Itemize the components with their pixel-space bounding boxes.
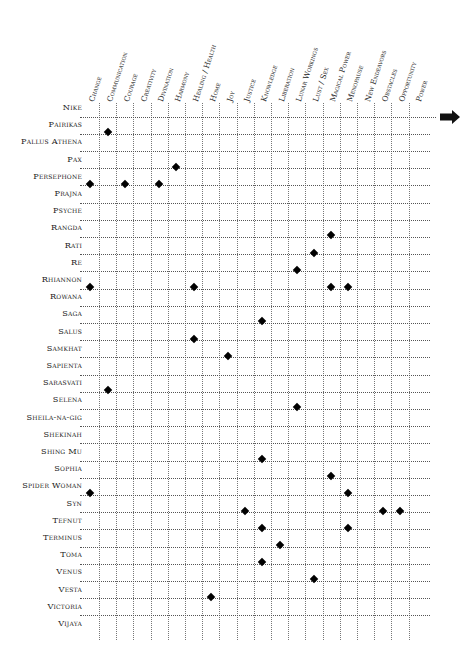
grid-vline — [409, 103, 410, 640]
grid-hline — [80, 495, 430, 496]
diamond-marker-icon — [310, 575, 318, 583]
grid-hline — [80, 426, 430, 427]
diamond-marker-icon — [293, 266, 301, 274]
grid-hline — [80, 185, 430, 186]
column-label-power: Power — [414, 79, 429, 102]
row-label-venus: Venus — [0, 566, 82, 576]
row-label-pallus-athena: Pallus Athena — [0, 136, 82, 146]
row-label-saga: Saga — [0, 308, 82, 318]
grid-hline — [80, 375, 430, 376]
grid-vline — [340, 103, 341, 640]
row-label-pax: Pax — [0, 154, 82, 164]
grid-hline — [80, 615, 430, 616]
diamond-marker-icon — [189, 334, 197, 342]
row-label-pairikas: Pairikas — [0, 119, 82, 129]
row-label-nike: Nike — [0, 102, 82, 112]
row-label-re: Re — [0, 257, 82, 267]
grid-vline — [237, 103, 238, 640]
grid-hline — [80, 357, 430, 358]
grid-hline — [80, 478, 430, 479]
grid-vline — [271, 103, 272, 640]
diamond-marker-icon — [258, 524, 266, 532]
diamond-marker-icon — [258, 455, 266, 463]
grid-hline — [80, 203, 430, 204]
grid-hline — [80, 598, 430, 599]
grid-vline — [168, 103, 169, 640]
diamond-marker-icon — [327, 472, 335, 480]
row-label-syn: Syn — [0, 498, 82, 508]
grid-hline — [80, 529, 430, 530]
grid-vline — [374, 103, 375, 640]
grid-vline — [288, 103, 289, 640]
row-label-selena: Selena — [0, 394, 82, 404]
diamond-marker-icon — [241, 506, 249, 514]
column-label-harmony: Harmony — [173, 71, 191, 103]
row-label-rowana: Rowana — [0, 291, 82, 301]
grid-hline — [80, 237, 430, 238]
grid-vline — [254, 103, 255, 640]
grid-vline — [185, 103, 186, 640]
row-label-psyche: Psyche — [0, 205, 82, 215]
grid-hline — [80, 271, 430, 272]
grid-hline — [80, 220, 430, 221]
diamond-marker-icon — [344, 524, 352, 532]
row-label-sapienta: Sapienta — [0, 360, 82, 370]
goddess-attribute-chart: ChangeCommunicationCourageCreativityDivi… — [0, 0, 475, 672]
row-label-persephone: Persephone — [0, 171, 82, 181]
row-label-victoria: Victoria — [0, 601, 82, 611]
diamond-marker-icon — [121, 180, 129, 188]
diamond-marker-icon — [379, 506, 387, 514]
column-label-justice: Justice — [242, 78, 258, 103]
row-label-rati: Rati — [0, 240, 82, 250]
row-label-sheila-na-gig: Sheila-na-gig — [0, 412, 82, 422]
row-label-rangda: Rangda — [0, 222, 82, 232]
diamond-marker-icon — [172, 162, 180, 170]
column-label-creativity: Creativity — [139, 68, 158, 103]
grid-hline — [80, 581, 430, 582]
grid-hline — [80, 306, 430, 307]
diamond-marker-icon — [344, 283, 352, 291]
grid-hline — [80, 564, 430, 565]
grid-hline — [80, 340, 430, 341]
grid-hline — [80, 289, 430, 290]
diamond-marker-icon — [275, 541, 283, 549]
grid-vline — [99, 103, 100, 640]
grid-hline — [80, 547, 430, 548]
column-label-courage: Courage — [122, 72, 140, 103]
row-label-toma: Toma — [0, 549, 82, 559]
diamond-marker-icon — [327, 231, 335, 239]
grid-vline — [116, 103, 117, 640]
row-label-salus: Salus — [0, 326, 82, 336]
diamond-marker-icon — [155, 180, 163, 188]
diamond-marker-icon — [258, 317, 266, 325]
right-arrow-icon — [440, 110, 460, 124]
column-label-joy: Joy — [225, 90, 237, 103]
grid-hline — [80, 323, 430, 324]
row-label-samkhat: Samkhat — [0, 343, 82, 353]
row-label-shing-mu: Shing Mu — [0, 446, 82, 456]
grid-vline — [133, 103, 134, 640]
column-label-obstacles: Obstacles — [380, 67, 399, 102]
diamond-marker-icon — [189, 283, 197, 291]
grid-hline — [80, 151, 430, 152]
row-label-sophia: Sophia — [0, 463, 82, 473]
row-label-sarasvati: Sarasvati — [0, 377, 82, 387]
grid-vline — [357, 103, 358, 640]
diamond-marker-icon — [86, 180, 94, 188]
grid-vline — [305, 103, 306, 640]
column-label-menopause: Menopause — [345, 64, 365, 103]
grid-hline — [80, 409, 430, 410]
grid-hline — [80, 443, 430, 444]
row-label-spider-woman: Spider Woman — [0, 480, 82, 490]
grid-hline — [80, 168, 430, 169]
diamond-marker-icon — [310, 248, 318, 256]
row-label-vesta: Vesta — [0, 584, 82, 594]
row-label-prajna: Prajna — [0, 188, 82, 198]
diamond-marker-icon — [103, 128, 111, 136]
diamond-marker-icon — [293, 403, 301, 411]
grid-vline — [202, 103, 203, 640]
grid-hline — [80, 254, 430, 255]
diamond-marker-icon — [258, 558, 266, 566]
grid-vline — [219, 103, 220, 640]
grid-hline — [80, 461, 430, 462]
